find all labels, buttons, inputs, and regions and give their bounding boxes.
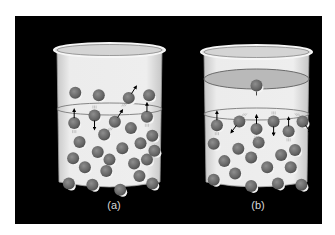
molecule-sphere (245, 180, 257, 192)
molecule-sphere (125, 122, 137, 134)
molecule-sphere (251, 79, 263, 91)
molecule-sphere (253, 137, 265, 149)
molecule-sphere (232, 143, 244, 155)
molecule-sphere (251, 123, 263, 135)
molecule-sphere (233, 115, 245, 127)
molecule-sphere (74, 136, 86, 148)
molecule-sphere (245, 151, 257, 163)
molecule-sphere (146, 130, 158, 142)
molecule-sphere (146, 178, 158, 190)
molecule-sphere (100, 165, 112, 177)
molecule-sphere (208, 138, 220, 150)
panel-label-a: (a) (107, 199, 120, 211)
beaker-closed (201, 45, 312, 193)
molecule-sphere (86, 179, 98, 191)
molecule-sphere (93, 89, 105, 101)
molecule-sphere (268, 115, 280, 127)
molecule-sphere (261, 161, 273, 173)
molecule-sphere (275, 149, 287, 161)
molecule-sphere (208, 174, 220, 186)
molecule-sphere (69, 87, 81, 99)
beaker-open (54, 43, 165, 197)
molecule-sphere (98, 128, 110, 140)
panel-label-b: (b) (251, 199, 264, 211)
molecule-sphere (229, 168, 241, 180)
molecule-sphere (285, 161, 297, 173)
molecule-sphere (135, 137, 147, 149)
molecule-sphere (295, 179, 307, 191)
molecule-sphere (133, 170, 145, 182)
molecule-sphere (143, 89, 155, 101)
molecule-sphere (123, 92, 135, 104)
molecule-sphere (68, 117, 80, 129)
molecule-sphere (116, 142, 128, 154)
molecule-sphere (289, 144, 301, 156)
molecule-sphere (141, 111, 153, 123)
molecule-sphere (104, 154, 116, 166)
evaporation-diagram: (a) (b) (0, 0, 335, 235)
molecule-sphere (67, 152, 79, 164)
beaker-rim (201, 45, 312, 59)
beaker-rim (54, 43, 165, 57)
molecule-sphere (211, 119, 223, 131)
molecule-sphere (92, 146, 104, 158)
molecule-sphere (272, 177, 284, 189)
molecule-sphere (63, 178, 75, 190)
molecule-sphere (109, 116, 121, 128)
molecule-sphere (218, 155, 230, 167)
molecule-sphere (79, 161, 91, 173)
molecule-sphere (141, 154, 153, 166)
molecule-sphere (128, 157, 140, 169)
molecule-sphere (114, 184, 126, 196)
molecule-sphere (89, 110, 101, 122)
molecule-sphere (297, 115, 309, 127)
molecule-sphere (283, 125, 295, 137)
